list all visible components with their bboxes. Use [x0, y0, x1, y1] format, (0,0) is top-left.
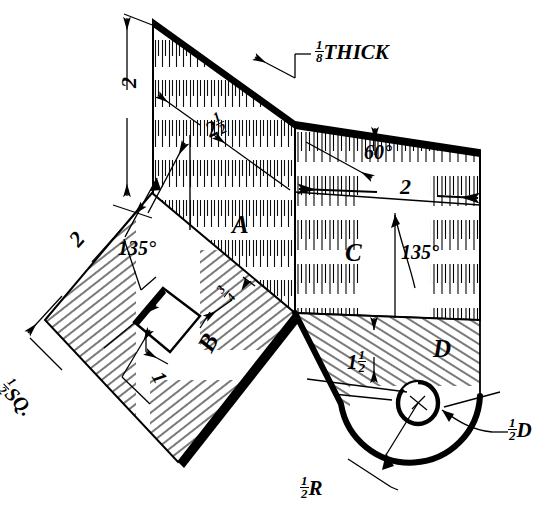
leader-thickness	[255, 54, 311, 78]
note-stock-thickness: 18 THICK	[315, 40, 389, 65]
onehalf-whole: 1	[347, 352, 358, 373]
dim-label-depth-1-and-half: 112	[347, 350, 366, 375]
hd-numerator: 1	[508, 417, 517, 429]
dim-label-angle-135-right: 135°	[401, 242, 439, 262]
panel-label-d: D	[433, 336, 451, 361]
panel-label-a: A	[232, 212, 249, 237]
onehalf-numerator: 1	[358, 349, 367, 361]
dim-label-angle-60: 60°	[364, 142, 392, 162]
thick-suffix: THICK	[324, 42, 389, 63]
onehalf-denominator: 2	[358, 361, 367, 374]
dim-label-height-2: 2	[118, 77, 140, 88]
technical-drawing-canvas: 18 THICK 2 212 60° 2 135° 135° 2 12 SQ. …	[0, 0, 546, 531]
cr-numerator: 1	[300, 475, 309, 487]
thick-numerator: 1	[315, 39, 324, 51]
cr-suffix: R	[309, 478, 323, 499]
dim-label-width-2: 2	[400, 176, 411, 198]
thick-denominator: 8	[315, 51, 324, 64]
dim-label-hole-diameter: 12D	[508, 418, 532, 443]
hd-suffix: D	[517, 420, 532, 441]
cr-denominator: 2	[300, 487, 309, 500]
panel-label-c: C	[345, 240, 362, 265]
isometric-part-drawing	[0, 0, 546, 531]
dim-label-corner-radius: 12R	[300, 476, 323, 501]
hd-denominator: 2	[508, 429, 517, 442]
dim-label-angle-135-left: 135°	[118, 238, 156, 258]
